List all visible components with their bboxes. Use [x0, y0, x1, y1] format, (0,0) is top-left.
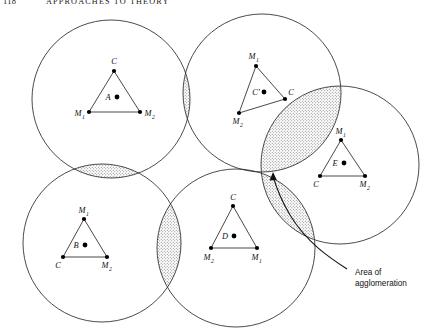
label-triangle-a-vertex-m2-sub: 2 — [152, 114, 155, 120]
label-triangle-c-vertex-c: C — [288, 88, 294, 97]
label-triangle-c-vertex-m1-sub: 1 — [256, 57, 259, 63]
annotation-line-1: Area of — [355, 268, 382, 277]
triangle-a: C M 1 M 2 A — [74, 57, 156, 120]
vertex-dot-c — [61, 255, 65, 259]
triangle-d: C M 2 M 1 D — [203, 193, 263, 264]
annotation-line-2: agglomeration — [355, 279, 407, 288]
label-triangle-a-inner: A — [104, 93, 111, 102]
figure-root: 118 APPROACHES TO THEORY — [0, 0, 424, 331]
vertex-dot-m2 — [105, 255, 109, 259]
label-triangle-e-vertex-c: C — [313, 180, 319, 189]
inner-point-dot-e — [342, 161, 347, 166]
label-triangle-c-inner: C' — [252, 88, 260, 97]
label-triangle-b-vertex-m2-sub: 2 — [109, 266, 112, 272]
label-triangle-b-vertex-m1-sub: 1 — [86, 211, 89, 217]
vertex-dot-m2 — [138, 110, 142, 114]
label-triangle-b-vertex-c: C — [55, 261, 61, 270]
label-triangle-e-inner: E — [331, 159, 337, 168]
label-triangle-d-vertex-m1-sub: 1 — [259, 258, 262, 264]
agglomeration-diagram: C M 1 M 2 A M 1 M 2 C C' M — [0, 0, 424, 331]
vertex-dot-m1 — [87, 110, 91, 114]
label-triangle-d-vertex-c: C — [230, 193, 236, 202]
inner-point-dot-a — [115, 95, 120, 100]
label-triangle-a-vertex-c: C — [111, 57, 117, 66]
annotation-label: Area of agglomeration — [355, 268, 407, 288]
triangle-b: M 1 C M 2 B — [55, 206, 112, 272]
inner-point-dot-d — [232, 234, 237, 239]
vertex-dot-m1 — [82, 217, 86, 221]
vertex-dot-m2 — [237, 111, 241, 115]
vertex-dot-c — [112, 69, 116, 73]
vertex-dot-m1 — [254, 64, 258, 68]
label-triangle-e-vertex-m1-sub: 1 — [343, 132, 346, 138]
vertex-dot-m2 — [209, 246, 213, 250]
arrowhead-icon — [270, 172, 277, 180]
vertex-dot-c — [283, 97, 287, 101]
label-triangle-c-vertex-m2-sub: 2 — [240, 122, 243, 128]
label-triangle-e-vertex-m2-sub: 2 — [367, 185, 370, 191]
label-triangle-d-vertex-m2-sub: 2 — [211, 258, 214, 264]
label-triangle-b-inner: B — [73, 241, 78, 250]
vertex-dot-m1 — [339, 138, 343, 142]
vertex-dot-c — [231, 204, 235, 208]
label-triangle-d-inner: D — [221, 232, 228, 241]
vertex-dot-m2 — [363, 174, 367, 178]
vertex-dot-m1 — [255, 246, 259, 250]
inner-point-dot-c-prime — [262, 90, 267, 95]
vertex-dot-c — [318, 174, 322, 178]
circle-a — [32, 20, 190, 178]
inner-point-dot-b — [83, 243, 88, 248]
label-triangle-a-vertex-m1-sub: 1 — [82, 114, 85, 120]
